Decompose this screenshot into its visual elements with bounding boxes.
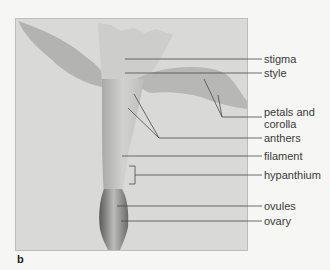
label-petals-line1: petals and (264, 106, 315, 118)
label-petals-line2: corolla (264, 118, 296, 130)
ovary-shape (99, 189, 128, 250)
floral-tube (102, 79, 144, 194)
label-ovary: ovary (264, 215, 291, 227)
label-filament: filament (264, 150, 303, 162)
label-stigma: stigma (264, 53, 296, 65)
label-style: style (264, 67, 287, 79)
flower-photograph (15, 18, 248, 251)
panel-letter: b (17, 253, 24, 265)
label-hypanthium: hypanthium (264, 169, 321, 181)
label-anthers: anthers (264, 132, 301, 144)
right-petal (136, 67, 247, 109)
label-ovules: ovules (264, 200, 296, 212)
flower-illustration (16, 19, 247, 250)
left-petal (18, 21, 103, 87)
